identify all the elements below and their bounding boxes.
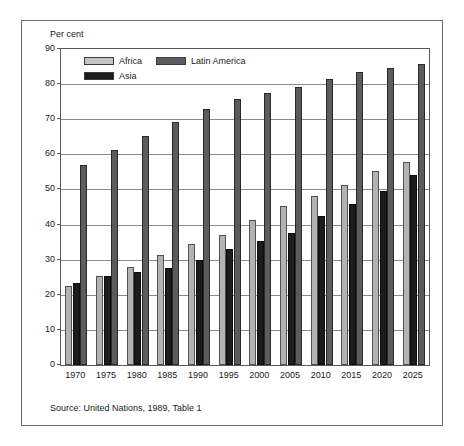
bar-africa-2015 [341, 185, 348, 365]
x-axis-tick-label: 2010 [311, 370, 331, 380]
bars-layer [61, 49, 429, 365]
x-axis-tick-label: 2015 [341, 370, 361, 380]
chart-legend: Africa Latin America Asia [84, 54, 260, 84]
figure-frame: Per cent 0102030405060708090 19701975198… [21, 20, 443, 426]
x-axis-tick-label: 1975 [96, 370, 116, 380]
bar-group [280, 49, 302, 365]
bar-asia-2000 [257, 241, 264, 365]
bar-group [372, 49, 394, 365]
bar-latam-1995 [234, 99, 241, 365]
y-axis-tick-label: 50 [45, 184, 55, 193]
bar-africa-1985 [157, 255, 164, 365]
y-axis-tick-label: 20 [45, 289, 55, 298]
bar-group [65, 49, 87, 365]
legend-label-latin-america: Latin America [191, 56, 246, 66]
bar-asia-2010 [318, 216, 325, 365]
y-axis-tick-label: 40 [45, 219, 55, 228]
y-axis-tick-label: 70 [45, 114, 55, 123]
legend-item-africa: Africa [84, 56, 142, 66]
legend-label-africa: Africa [119, 56, 142, 66]
x-axis-tick-label: 1970 [65, 370, 85, 380]
bar-group [341, 49, 363, 365]
x-axis-tick-label: 2005 [280, 370, 300, 380]
x-axis-tick-label: 2025 [403, 370, 423, 380]
bar-africa-1970 [65, 286, 72, 365]
x-axis-tick-labels: 1970197519801985199019952000200520102015… [60, 370, 430, 384]
bar-africa-1980 [127, 267, 134, 365]
bar-asia-2025 [410, 175, 417, 365]
legend-item-latin-america: Latin America [156, 56, 246, 66]
plot-area [60, 48, 430, 366]
bar-asia-1975 [104, 276, 111, 365]
x-axis-tick-label: 2020 [372, 370, 392, 380]
bar-africa-2000 [249, 220, 256, 365]
bar-asia-1980 [134, 272, 141, 365]
x-axis-tick-label: 1980 [127, 370, 147, 380]
bar-group [403, 49, 425, 365]
bar-asia-2005 [288, 233, 295, 365]
bar-latam-2020 [387, 68, 394, 365]
bar-africa-2025 [403, 162, 410, 365]
legend-row-top: Africa Latin America [84, 54, 260, 67]
x-axis-tick-label: 1990 [188, 370, 208, 380]
bar-latam-2010 [326, 79, 333, 366]
legend-item-asia: Asia [84, 71, 137, 81]
bar-group [127, 49, 149, 365]
bar-latam-1975 [111, 150, 118, 365]
y-axis-tick-label: 90 [45, 44, 55, 53]
bar-asia-1970 [73, 283, 80, 366]
bar-latam-2015 [356, 72, 363, 365]
y-axis-tick-label: 80 [45, 79, 55, 88]
legend-row-bottom: Asia [84, 69, 260, 82]
legend-swatch-asia-icon [84, 72, 114, 80]
bar-latam-2000 [264, 93, 271, 365]
bar-group [249, 49, 271, 365]
legend-label-asia: Asia [119, 71, 137, 81]
bar-latam-1985 [172, 122, 179, 365]
bar-asia-1995 [226, 249, 233, 365]
bar-latam-2005 [295, 87, 302, 365]
y-axis-tick-label: 10 [45, 324, 55, 333]
y-axis-unit-label: Per cent [50, 29, 84, 39]
bar-group [188, 49, 210, 365]
bar-africa-2010 [311, 196, 318, 365]
bar-africa-2020 [372, 171, 379, 366]
bar-asia-2020 [380, 191, 387, 365]
x-axis-tick-label: 2000 [249, 370, 269, 380]
bar-latam-2025 [418, 64, 425, 365]
bar-africa-2005 [280, 206, 287, 365]
legend-swatch-africa-icon [84, 57, 114, 65]
bar-asia-1985 [165, 268, 172, 365]
y-axis-tick-label: 0 [50, 360, 55, 369]
y-axis-tick-labels: 0102030405060708090 [35, 48, 55, 366]
y-axis-tick-label: 60 [45, 149, 55, 158]
legend-swatch-latin-america-icon [156, 57, 186, 65]
bar-latam-1990 [203, 109, 210, 365]
bar-africa-1995 [219, 235, 226, 365]
y-axis-tick-label: 30 [45, 254, 55, 263]
bar-group [96, 49, 118, 365]
bar-group [219, 49, 241, 365]
bar-africa-1990 [188, 244, 195, 365]
bar-latam-1970 [80, 165, 87, 365]
bar-group [157, 49, 179, 365]
source-note: Source: United Nations, 1989, Table 1 [50, 403, 201, 413]
x-axis-tick-label: 1995 [219, 370, 239, 380]
bar-asia-1990 [196, 260, 203, 365]
bar-africa-1975 [96, 276, 103, 365]
bar-asia-2015 [349, 204, 356, 365]
bar-latam-1980 [142, 136, 149, 365]
bar-group [311, 49, 333, 365]
x-axis-tick-label: 1985 [157, 370, 177, 380]
